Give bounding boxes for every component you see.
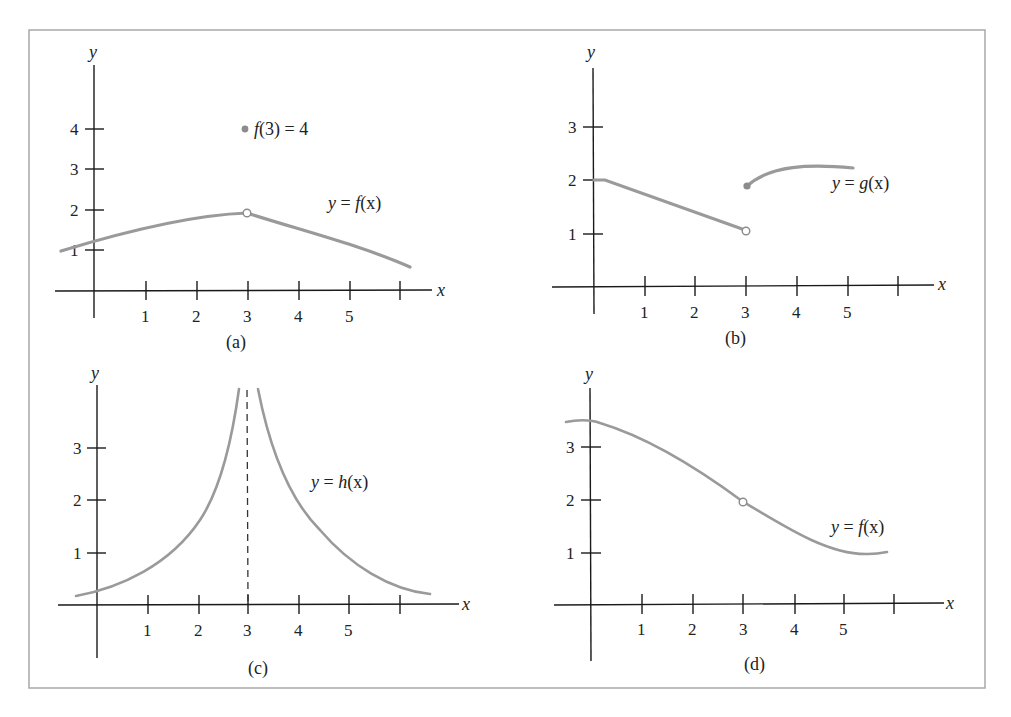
y-tick-label: 1 [566,544,575,563]
x-axis [554,603,944,605]
y-tick-labels: 1 2 3 [73,439,82,563]
x-axis-label: x [937,274,946,294]
curve-label: y = f(x) [326,193,381,214]
x-tick-label: 5 [344,621,353,640]
x-tick-labels: 1 2 3 4 5 [141,307,354,326]
open-point [742,227,750,235]
x-tick-label: 1 [637,620,646,639]
y-tick-label: 3 [70,160,79,179]
x-tick-label: 2 [194,621,203,640]
x-axis [552,285,934,287]
x-tick-label: 2 [192,307,201,326]
y-tick-label: 2 [568,171,577,190]
x-tick-label: 2 [688,620,697,639]
vertical-asymptote [247,390,248,604]
panel-caption: (d) [744,654,765,675]
x-tick-label: 5 [839,620,848,639]
x-tick-label: 3 [243,307,252,326]
y-tick-label: 2 [566,491,575,510]
x-axis-label: x [461,594,470,614]
y-axis [590,388,591,661]
panel-d: x y 1 2 3 4 5 1 2 3 y = f(x) [554,364,954,675]
y-tick-label: 1 [73,544,82,563]
y-axis-label: y [89,363,99,383]
figure-frame [29,30,985,688]
x-tick-label: 4 [790,620,799,639]
panel-c: x y 1 2 3 4 5 1 2 3 y = h( [58,363,470,679]
y-tick-labels: 1 2 3 [566,438,575,563]
x-tick-label: 5 [345,307,354,326]
x-tick-label: 4 [294,307,303,326]
y-tick-label: 3 [566,438,575,457]
curve-label: y = g(x) [830,173,889,194]
curve-label: y = h(x) [309,472,368,493]
panel-a: x y 1 2 3 4 5 1 2 3 4 [55,42,445,353]
x-axis-label: x [436,280,445,300]
x-tick-label: 1 [143,621,152,640]
curve-h-left [76,389,239,596]
filled-point [242,126,249,133]
open-point [243,209,251,217]
y-axis-label: y [583,364,593,384]
y-tick-label: 4 [70,120,79,139]
y-tick-label: 3 [73,439,82,458]
y-tick-label: 1 [70,241,79,260]
y-tick-label: 2 [70,201,79,220]
x-tick-label: 3 [739,620,748,639]
y-axis [593,68,594,314]
y-tick-label: 3 [568,118,577,137]
panel-b: x y 1 2 3 4 5 1 2 3 y [552,42,946,349]
x-tick-label: 4 [792,303,801,322]
panel-caption: (a) [226,332,246,353]
curve-label: y = f(x) [829,517,884,538]
x-axis-label: x [945,593,954,613]
x-tick-label: 3 [243,621,252,640]
x-tick-label: 1 [141,307,150,326]
annotation-f3: f(3) = 4 [254,119,308,140]
x-tick-label: 4 [294,621,303,640]
open-point [739,498,747,506]
x-tick-label: 2 [690,303,699,322]
x-tick-labels: 1 2 3 4 5 [143,621,353,640]
x-axis [55,290,432,291]
curve-g-left [594,180,745,230]
y-tick-label: 1 [568,225,577,244]
y-axis-label: y [585,42,595,62]
curve-f [61,213,410,267]
x-tick-label: 1 [640,303,649,322]
x-tick-label: 3 [741,303,750,322]
y-tick-labels: 1 2 3 4 [70,120,79,260]
limits-figure: x y 1 2 3 4 5 1 2 3 4 [0,0,1011,717]
x-tick-labels: 1 2 3 4 5 [640,303,852,322]
x-tick-label: 5 [843,303,852,322]
x-tick-labels: 1 2 3 4 5 [637,620,848,639]
y-tick-labels: 1 2 3 [568,118,577,244]
x-axis [58,604,459,605]
filled-point [743,182,750,189]
y-tick-label: 2 [73,491,82,510]
panel-caption: (c) [248,658,268,679]
y-axis-label: y [87,42,97,62]
panel-caption: (b) [725,328,746,349]
